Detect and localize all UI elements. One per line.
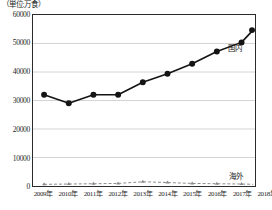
series-label-domestic: 国内 xyxy=(228,44,242,53)
y-tick-30000: 30000 xyxy=(0,97,30,105)
domestic-line xyxy=(44,30,253,103)
x-tick-2014: 2014年 xyxy=(158,189,177,199)
x-tick-2011: 2011年 xyxy=(84,189,103,199)
y-tick-0: 0 xyxy=(0,183,30,191)
x-tick-2016: 2016年 xyxy=(208,189,227,199)
y-tick-40000: 40000 xyxy=(0,68,30,76)
series-overseas xyxy=(42,180,253,186)
domestic-markers xyxy=(41,27,255,106)
x-tick-2013: 2013年 xyxy=(133,189,152,199)
y-tick-10000: 10000 xyxy=(0,155,30,163)
y-tick-20000: 20000 xyxy=(0,126,30,134)
overseas-line xyxy=(44,182,253,185)
x-tick-2017: 2017年 xyxy=(233,189,252,199)
x-axis-labels: 2009年 2010年 2011年 2012年 2013年 2014年 2015… xyxy=(32,189,256,203)
y-tick-50000: 50000 xyxy=(0,39,30,47)
x-tick-2012: 2012年 xyxy=(108,189,127,199)
x-tick-2009: 2009年 xyxy=(34,189,53,199)
series-label-overseas: 海外 xyxy=(229,172,243,181)
x-tick-2018: 2018年 xyxy=(257,189,272,199)
y-tick-60000: 60000 xyxy=(0,11,30,19)
x-tick-2010: 2010年 xyxy=(59,189,78,199)
overseas-markers xyxy=(42,180,243,186)
plot-svg xyxy=(33,15,255,186)
chart-container: （単位:万食） 0 10000 20000 30000 40000 50000 … xyxy=(0,0,272,210)
plot-area xyxy=(32,14,256,187)
gridlines xyxy=(33,43,255,157)
series-domestic xyxy=(41,27,255,106)
y-axis-labels: 0 10000 20000 30000 40000 50000 60000 xyxy=(0,0,30,210)
x-tick-2015: 2015年 xyxy=(183,189,202,199)
